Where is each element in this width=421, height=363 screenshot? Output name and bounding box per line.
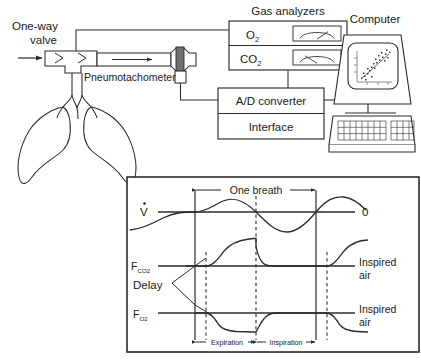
pneumotachometer-screen-element — [176, 47, 184, 72]
pneumotachometer-port — [175, 71, 186, 83]
diagram-canvas: One-way valve Pneumotachometer Gas analy… — [0, 0, 421, 363]
vdot-baseline-label: 0 — [362, 206, 368, 218]
co2-label-sub: 2 — [257, 59, 261, 68]
computer-keyboard — [329, 116, 415, 152]
interface-label: Interface — [249, 121, 294, 133]
co2-gauge — [293, 50, 341, 65]
pneumotachometer-label: Pneumotachometer — [84, 71, 176, 83]
fco2-label-sub: CO2 — [137, 267, 150, 274]
figure-root: One-way valve Pneumotachometer Gas analy… — [0, 0, 421, 363]
vdot-overdot-icon — [143, 202, 146, 205]
o2-gauge — [293, 26, 341, 41]
computer-monitor — [334, 35, 411, 104]
gas-analyzers-title: Gas analyzers — [251, 5, 325, 17]
fco2-baseline-label-line1: Inspired — [359, 256, 397, 268]
fo2-label-sub: O2 — [139, 315, 148, 322]
ad-converter-label: A/D converter — [236, 95, 306, 107]
o2-label-text: O — [246, 29, 255, 41]
inspiration-label: Inspiration — [269, 338, 302, 347]
delay-label: Delay — [133, 279, 163, 291]
lungs — [18, 73, 136, 184]
one-way-valve — [45, 51, 97, 73]
one-breath-label: One breath — [230, 184, 283, 196]
computer-stand — [345, 104, 396, 113]
fo2-baseline-label-line1: Inspired — [359, 303, 397, 315]
one-way-valve-label-line1: One-way — [12, 20, 58, 32]
co2-label-text: CO — [240, 53, 257, 65]
vdot-label-text: V — [140, 206, 148, 218]
fo2-baseline-label-line2: air — [359, 316, 371, 328]
expiration-label: Expiration — [211, 338, 243, 347]
fco2-baseline-label-line2: air — [359, 269, 371, 281]
computer-title: Computer — [350, 13, 401, 25]
o2-label-sub: 2 — [255, 35, 259, 44]
one-way-valve-label-line2: valve — [30, 34, 57, 46]
